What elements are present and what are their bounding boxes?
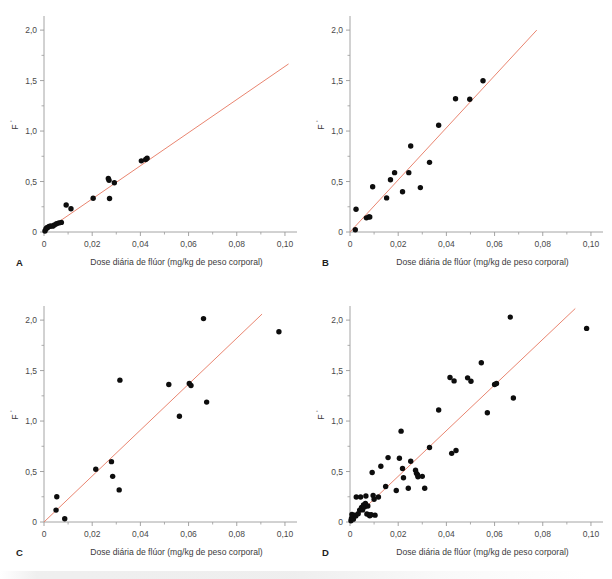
data-points-d <box>348 314 589 523</box>
y-tick-label: 1,0 <box>25 416 37 426</box>
axes-c: 00,51,01,52,000,020,040,060,080,10 <box>25 306 297 539</box>
data-point <box>59 220 64 225</box>
x-tick-label: 0,06 <box>180 239 197 249</box>
data-point <box>109 459 114 464</box>
x-tick-label: 0,10 <box>583 239 600 249</box>
y-tick-label: 0,5 <box>25 177 37 187</box>
x-axis-title: Dose diária de flúor (mg/kg de peso corp… <box>396 547 569 557</box>
x-tick-label: 0,08 <box>534 239 551 249</box>
data-point <box>467 97 472 102</box>
data-point <box>418 185 423 190</box>
panel-c: 00,51,01,52,000,020,040,060,080,10F°Dose… <box>0 290 306 579</box>
y-tick-label: 1,5 <box>25 366 37 376</box>
data-point <box>479 360 484 365</box>
panel-letter-a: A <box>16 257 23 268</box>
y-axis-title-superscript: ° <box>315 120 321 122</box>
data-point <box>54 494 59 499</box>
regression-fit-line <box>44 314 262 522</box>
panel-d: 00,51,01,52,000,020,040,060,080,10F°Dose… <box>306 290 612 579</box>
data-point <box>188 383 193 388</box>
y-axis-title-base: F <box>10 414 20 419</box>
data-point <box>511 395 516 400</box>
data-point <box>398 428 403 433</box>
y-axis-title-superscript: ° <box>9 410 15 412</box>
x-tick-label: 0,04 <box>132 529 149 539</box>
y-tick-label: 0,5 <box>331 467 343 477</box>
data-point <box>408 143 413 148</box>
x-tick-label: 0,10 <box>277 239 294 249</box>
plot-a: 00,51,01,52,000,020,040,060,080,10F°Dose… <box>0 0 306 289</box>
y-axis-title-base: F <box>10 124 20 129</box>
data-point <box>468 378 473 383</box>
y-axis-title-superscript: ° <box>315 410 321 412</box>
x-tick-label: 0,08 <box>228 529 245 539</box>
y-tick-label: 0 <box>32 517 37 527</box>
x-tick-label: 0,06 <box>486 239 503 249</box>
data-point <box>584 326 589 331</box>
y-tick-label: 0 <box>338 517 343 527</box>
data-point <box>400 466 405 471</box>
y-axis-title: F° <box>9 120 20 130</box>
plot-c: 00,51,01,52,000,020,040,060,080,10F°Dose… <box>0 290 306 579</box>
panel-a: 00,51,01,52,000,020,040,060,080,10F°Dose… <box>0 0 306 289</box>
data-point <box>276 329 281 334</box>
panel-letter-b: B <box>322 257 329 268</box>
data-point <box>177 414 182 419</box>
x-tick-label: 0,08 <box>228 239 245 249</box>
x-tick-label: 0,06 <box>486 529 503 539</box>
data-point <box>485 410 490 415</box>
x-axis-title: Dose diária de flúor (mg/kg de peso corp… <box>90 547 263 557</box>
x-tick-label: 0,02 <box>390 529 407 539</box>
y-tick-label: 1,0 <box>331 126 343 136</box>
y-axis-title-base: F <box>316 124 326 129</box>
data-point <box>422 485 427 490</box>
x-axis-title: Dose diária de flúor (mg/kg de peso corp… <box>90 257 263 267</box>
data-point <box>204 399 209 404</box>
data-point <box>494 381 499 386</box>
data-point <box>397 456 402 461</box>
data-points-c <box>53 316 281 522</box>
regression-fit-line <box>350 30 537 232</box>
data-point <box>385 455 390 460</box>
data-point <box>451 378 456 383</box>
data-point <box>358 494 363 499</box>
panel-letter-d: D <box>322 547 329 558</box>
data-point <box>453 448 458 453</box>
data-point <box>63 202 68 207</box>
x-tick-label: 0,04 <box>438 239 455 249</box>
data-point <box>378 464 383 469</box>
data-point <box>93 467 98 472</box>
data-point <box>480 78 485 83</box>
y-tick-label: 1,5 <box>25 76 37 86</box>
plot-b: 00,51,01,52,000,020,040,060,080,10F°Dose… <box>306 0 612 289</box>
data-point <box>353 207 358 212</box>
y-tick-label: 2,0 <box>331 25 343 35</box>
data-points-b <box>353 78 486 232</box>
data-point <box>68 206 73 211</box>
data-point <box>112 180 117 185</box>
data-point <box>365 503 370 508</box>
x-tick-label: 0,02 <box>390 239 407 249</box>
axes-b: 00,51,01,52,000,020,040,060,080,10 <box>331 16 603 249</box>
y-axis-title: F° <box>315 410 326 420</box>
x-tick-label: 0,10 <box>277 529 294 539</box>
data-points-a <box>42 156 150 234</box>
panel-b: 00,51,01,52,000,020,040,060,080,10F°Dose… <box>306 0 612 289</box>
data-point <box>353 227 358 232</box>
data-point <box>400 189 405 194</box>
axes-d: 00,51,01,52,000,020,040,060,080,10 <box>331 306 603 539</box>
x-tick-label: 0,04 <box>132 239 149 249</box>
data-point <box>53 507 58 512</box>
data-point <box>90 195 95 200</box>
y-axis-title-base: F <box>316 414 326 419</box>
x-tick-label: 0,02 <box>84 529 101 539</box>
data-point <box>62 516 67 521</box>
y-tick-label: 2,0 <box>331 315 343 325</box>
data-point <box>367 214 372 219</box>
data-point <box>388 177 393 182</box>
data-point <box>369 470 374 475</box>
x-tick-label: 0 <box>42 239 47 249</box>
y-axis-title: F° <box>9 410 20 420</box>
x-tick-label: 0,10 <box>583 529 600 539</box>
data-point <box>453 96 458 101</box>
